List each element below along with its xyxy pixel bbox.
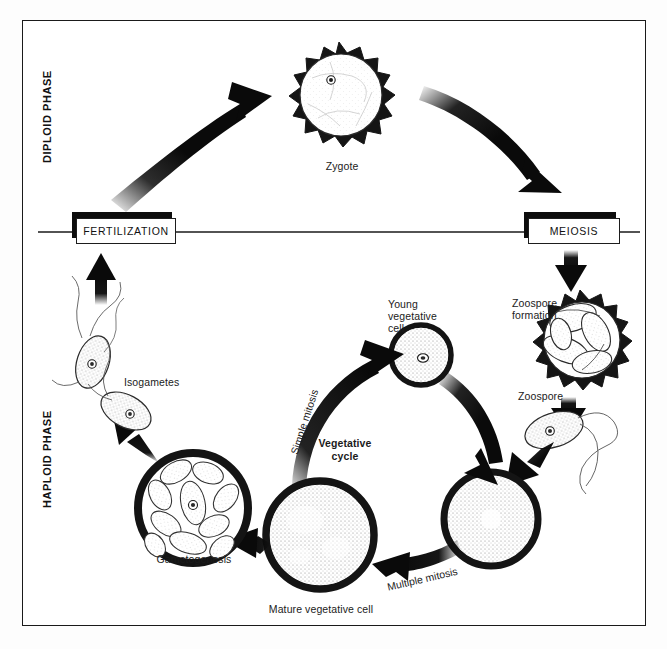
phase-label-haploid: HAPLOID PHASE [41,410,53,508]
zoospore-formation-label-line2: formation [512,309,557,322]
fertilization-box-face: FERTILIZATION [76,218,176,244]
young-vegetative-cell-label-line2: vegetative [388,310,437,323]
isogametes-label: Isogametes [124,376,179,389]
phase-label-diploid: DIPLOID PHASE [41,70,53,163]
vegetative-cycle-label-line1: Vegetative [290,437,400,450]
meiosis-label: MEIOSIS [550,225,599,237]
vegetative-cycle-label-line2: cycle [290,450,400,463]
young-vegetative-cell-label-line3: cell [388,322,404,335]
young-vegetative-cell-label-line1: Young [388,298,418,311]
mature-vegetative-cell-label: Mature vegetative cell [250,603,392,616]
meiosis-stage-box[interactable]: MEIOSIS [524,212,620,244]
fertilization-label: FERTILIZATION [83,225,169,237]
zoospore-formation-label-line1: Zoospore [512,297,557,310]
figure-canvas: DIPLOID PHASE HAPLOID PHASE FERTILIZATIO… [0,0,667,649]
zygote-label: Zygote [306,160,378,173]
gametogenesis-label: Gametogenesis [136,553,252,566]
figure-frame [22,20,646,626]
fertilization-stage-box[interactable]: FERTILIZATION [72,212,176,244]
zoospore-label: Zoospore [518,390,563,403]
meiosis-box-face: MEIOSIS [528,218,620,244]
